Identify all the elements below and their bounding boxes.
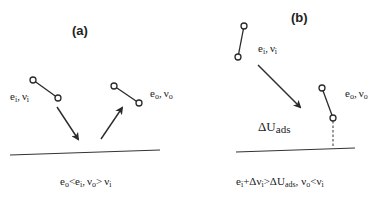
outgoing-state-label-b: eo,νo <box>345 87 368 101</box>
outgoing-molecule-a <box>111 83 142 106</box>
incoming-molecule-a <box>30 77 61 101</box>
adsorption-energy-label: ΔUads <box>258 119 290 135</box>
surface-line-a <box>10 150 160 155</box>
panel-a: (a) ei,νi eo,νo eo<ei,νo>νi <box>10 23 173 189</box>
adsorbed-molecule-b <box>319 85 336 121</box>
panel-b-label: (b) <box>291 10 308 25</box>
incoming-arrow-b <box>258 65 300 107</box>
incoming-molecule-b <box>235 23 247 60</box>
surface-line-b <box>236 148 355 152</box>
incoming-arrow-a <box>57 107 78 139</box>
scattering-diagram: (a) ei,νi eo,νo eo<ei,νo>νi (b) <box>0 0 382 198</box>
outgoing-arrow-a <box>101 108 122 139</box>
panel-b: (b) ei,νi eo,νo ΔUads ei+Δνi>ΔUads,νo<νi <box>235 10 368 189</box>
outgoing-state-label-a: eo,νo <box>150 87 173 101</box>
panel-a-label: (a) <box>72 23 88 38</box>
incoming-state-label-b: ei,νi <box>258 42 278 56</box>
caption-a: eo<ei,νo>νi <box>60 175 112 189</box>
incoming-state-label-a: ei,νi <box>10 90 30 104</box>
caption-b: ei+Δνi>ΔUads,νo<νi <box>236 175 324 189</box>
